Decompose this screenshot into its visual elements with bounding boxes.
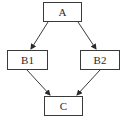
edge-b2-to-c xyxy=(77,70,100,95)
node-c: C xyxy=(44,96,83,116)
edge-a-to-b2 xyxy=(78,22,96,49)
node-a: A xyxy=(43,2,82,22)
node-b2-label: B2 xyxy=(94,54,107,66)
node-b2: B2 xyxy=(80,50,120,70)
node-c-label: C xyxy=(60,100,67,112)
diagram-canvas: A B1 B2 C xyxy=(0,0,123,130)
node-b1: B1 xyxy=(7,50,48,70)
node-b1-label: B1 xyxy=(21,54,34,66)
edge-a-to-b1 xyxy=(31,22,48,49)
edge-b1-to-c xyxy=(27,70,50,95)
node-a-label: A xyxy=(59,6,67,18)
